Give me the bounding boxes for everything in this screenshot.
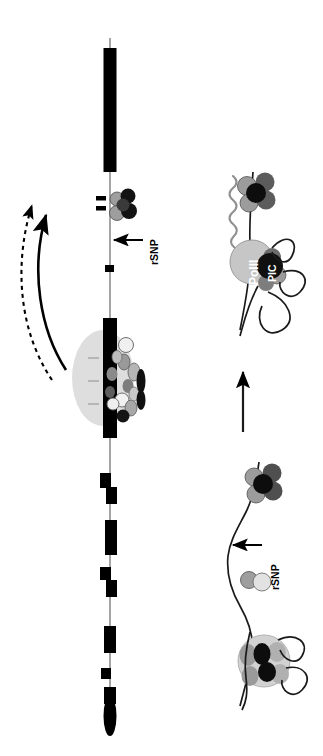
histone-core [258, 662, 276, 682]
gene-terminator-oval [104, 696, 117, 736]
exon-block [100, 473, 111, 488]
spliceosome-complex [72, 330, 146, 426]
curved-arrows [21, 205, 66, 380]
spliceosome-subunit [105, 386, 115, 398]
exon-block [101, 668, 111, 679]
histone-core [254, 643, 271, 665]
pic-label: PIC [266, 264, 278, 282]
polii-label: PolII [247, 260, 261, 285]
curved-dashed-arrow [21, 205, 52, 380]
spliceosome-subunit [107, 398, 119, 410]
nascent-rna [230, 176, 239, 257]
spliceosome-subunit [119, 338, 134, 353]
spliceosome-subunit [112, 351, 122, 364]
nucleosome-lower-free [245, 464, 283, 504]
curved-solid-arrow [38, 215, 66, 370]
histone-core [253, 474, 273, 494]
spliceosome-subunit [117, 410, 130, 423]
spliceosome-subunit [107, 367, 118, 381]
exon-block [106, 487, 117, 504]
rsnp-label-top: rSNP [148, 239, 160, 265]
exon-block [105, 520, 117, 555]
nucleosome-upper [238, 173, 276, 213]
snrnp-cluster-top [110, 189, 138, 221]
small-factor-beads [241, 572, 272, 592]
histone-lobe [242, 666, 259, 686]
histone-core [246, 183, 266, 203]
spliceosome-subunit [137, 369, 146, 393]
nucleosome-lower-wrapped [238, 632, 307, 710]
closed-chromatin-panel [228, 462, 308, 710]
figure-canvas: Luc7L rSNP rSNP PolII PIC [0, 0, 323, 756]
snrnp-core [117, 199, 130, 212]
exon-block [100, 567, 111, 580]
diagram-svg [0, 0, 323, 756]
exon-tick [96, 196, 106, 201]
spliceosome-subunit [137, 390, 146, 410]
exon-block [106, 580, 117, 597]
exon-tick [96, 206, 106, 211]
open-chromatin-panel [230, 172, 306, 336]
exon-block [105, 265, 114, 272]
gene-label-luc7l: Luc7L [104, 99, 116, 130]
exon-block [104, 626, 116, 653]
histone-lobe [268, 642, 286, 662]
rsnp-label-bottom: rSNP [269, 564, 281, 590]
